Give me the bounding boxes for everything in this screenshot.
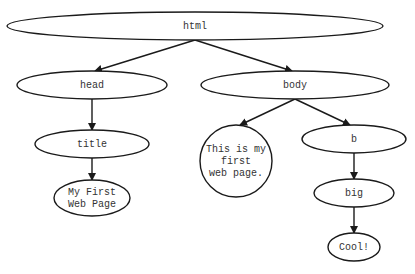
node-html-label: html [183,21,207,32]
node-b-label: b [351,134,357,145]
node-body_text-label: This is my [206,144,266,155]
node-title: title [35,130,149,158]
node-big: big [314,179,394,207]
nodes-layer: htmlheadbodytitleMy FirstWeb PageThis is… [7,12,406,261]
node-body_text: This is myfirstweb page. [200,125,272,197]
node-body-label: body [283,80,307,91]
dom-tree-diagram: htmlheadbodytitleMy FirstWeb PageThis is… [0,0,415,274]
edge-body-to-body_text [240,99,295,125]
node-body_text-label: first [221,156,251,167]
node-body_text-label: web page. [209,168,263,179]
node-html: html [7,12,383,40]
node-cool: Cool! [328,233,380,261]
node-big-label: big [345,188,363,199]
node-b: b [302,125,406,153]
node-title_text: My FirstWeb Page [54,180,130,216]
node-title_text-label: My First [68,187,116,198]
node-body: body [201,71,389,99]
edge-html-to-head [95,40,195,71]
node-head: head [17,71,167,99]
node-cool-label: Cool! [339,242,369,253]
node-head-label: head [80,80,104,91]
edge-html-to-body [195,40,292,71]
node-title-label: title [77,139,107,150]
edge-body-to-b [295,99,350,125]
node-title_text-label: Web Page [68,199,116,210]
